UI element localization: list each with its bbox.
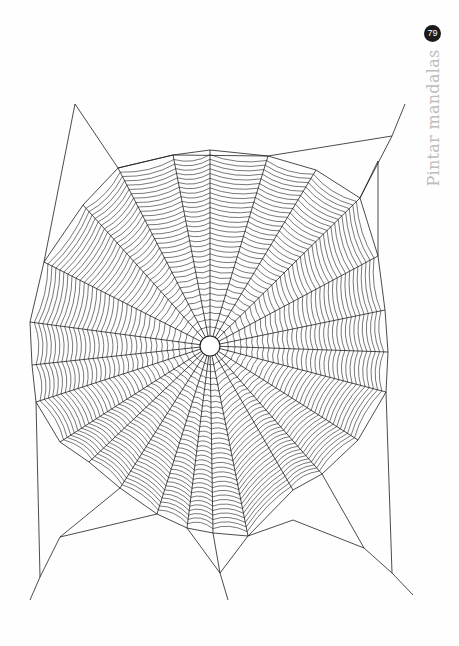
frame-thread <box>220 536 248 573</box>
frame-thread <box>392 573 413 595</box>
frame-thread <box>44 104 75 262</box>
frame-thread <box>268 136 392 156</box>
frame-thread <box>220 573 228 600</box>
frame-thread <box>173 155 268 156</box>
frame-thread <box>30 577 40 600</box>
frame-thread <box>392 104 405 136</box>
section-title: Pintar mandalas <box>424 49 443 186</box>
frame-thread <box>248 520 293 536</box>
frame-thread <box>40 537 60 577</box>
frame-thread <box>187 528 220 573</box>
web-hub <box>200 336 220 356</box>
spider-web-illustration <box>0 0 459 646</box>
frame-thread <box>213 533 220 573</box>
frame-thread <box>75 104 118 168</box>
frame-thread <box>322 474 364 548</box>
page-number-badge: 79 <box>424 25 441 42</box>
frame-thread <box>360 161 378 198</box>
frame-thread <box>36 402 40 577</box>
frame-thread <box>293 520 364 548</box>
coloring-page: 79 Pintar mandalas <box>0 0 459 646</box>
frame-thread <box>364 548 392 573</box>
frame-thread <box>386 392 392 573</box>
